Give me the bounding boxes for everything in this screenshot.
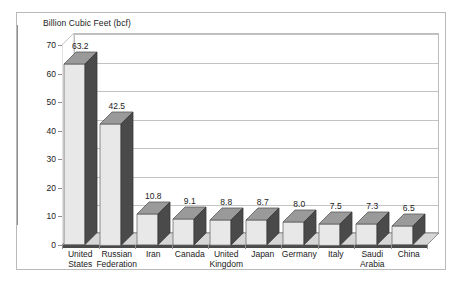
bar[interactable] [100,112,133,245]
bar-value-label: 8.7 [257,197,269,207]
x-axis-category-labels: United StatesRussian FederationIranCanad… [62,249,439,279]
bar-value-label: 6.5 [403,203,415,213]
y-tick-label: 40 [47,126,56,136]
bar-value-label: 8.8 [220,197,232,207]
bar[interactable] [283,210,316,245]
y-tick-mark [58,45,62,46]
x-tick-mark [427,245,428,249]
y-tick-label: 10 [47,211,56,221]
y-tick-mark [58,159,62,160]
y-axis-line [17,25,18,225]
y-axis-tick-labels: 010203040506070 [17,13,56,271]
bar[interactable] [392,214,425,245]
x-category-label: China [387,249,432,259]
bar[interactable] [64,52,97,245]
y-tick-mark [58,131,62,132]
bar[interactable] [319,212,352,245]
bar-value-label: 8.0 [293,199,305,209]
y-tick-mark [58,188,62,189]
chart-frame: Billion Cubic Feet (bcf) 010203040506070… [16,12,446,270]
y-tick-label: 20 [47,183,56,193]
bar[interactable] [210,208,243,245]
y-tick-mark [58,216,62,217]
bar-value-label: 42.5 [108,101,125,111]
y-tick-label: 70 [47,40,56,50]
y-tick-label: 60 [47,69,56,79]
y-tick-mark [58,245,62,246]
bar[interactable] [173,207,206,245]
y-tick-mark [58,102,62,103]
bar-value-label: 7.5 [330,201,342,211]
y-tick-label: 30 [47,154,56,164]
bar[interactable] [356,212,389,245]
chart-axis-title: Billion Cubic Feet (bcf) [43,18,131,28]
bar-value-label: 10.8 [145,191,162,201]
y-tick-label: 50 [47,97,56,107]
bar-series: 63.242.510.89.18.88.78.07.57.36.5 [62,33,439,245]
y-tick-label: 0 [51,240,56,250]
bar-value-label: 9.1 [184,196,196,206]
bar-value-label: 7.3 [366,201,378,211]
bar[interactable] [246,208,279,245]
bar-value-label: 63.2 [72,41,89,51]
bar[interactable] [137,202,170,245]
y-tick-mark [58,74,62,75]
